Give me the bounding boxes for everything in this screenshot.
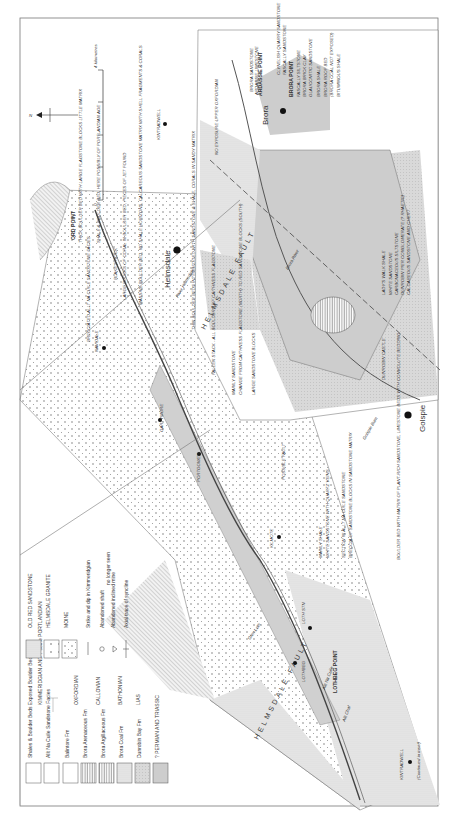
svg-text:no longer seen: no longer seen	[105, 552, 111, 585]
legend-swatch-shales	[26, 763, 41, 783]
svg-text:CLYNELISH QUARRY SANDSTONE: CLYNELISH QUARRY SANDSTONE	[276, 3, 281, 75]
svg-text:CARBONACEOUS SILTSTONE: CARBONACEOUS SILTSTONE	[394, 232, 399, 295]
legend-swatch-balintore	[63, 763, 78, 783]
svg-text:BLAKE'S ROCK: BLAKE'S ROCK	[113, 247, 118, 280]
svg-text:LIAS: LIAS	[135, 693, 141, 705]
svg-text:Shales & Boulder Beds Exposed: Shales & Boulder Beds Exposed Boulder Be…	[27, 654, 33, 758]
svg-text:(BRORA COAL NOT EXPOSED): (BRORA COAL NOT EXPOSED)	[329, 32, 334, 97]
legend-swatch-brora-arenaceous	[81, 763, 96, 783]
town-brora: Brora	[261, 105, 270, 125]
svg-text:THIN BOULDER BEDS INTERBEDDED: THIN BOULDER BEDS INTERBEDDED WITH SANDS…	[191, 130, 196, 330]
svg-text:MOINE: MOINE	[63, 611, 69, 628]
svg-text:Brora Argillaceous Fm: Brora Argillaceous Fm	[100, 709, 106, 758]
svg-text:BATHONIAN: BATHONIAN	[117, 676, 123, 705]
svg-text:BRECCIATED ALLT NA CUILE SANDS: BRECCIATED ALLT NA CUILE SANDSTONE FACIE…	[86, 236, 91, 342]
geological-map: HELMSDALE FAULT HELMSDALE FAULT Brora He…	[0, 0, 449, 824]
svg-text:LADY'S WALK SHALE: LADY'S WALK SHALE	[381, 250, 386, 295]
legend-swatch-allt-na-cuile	[44, 763, 59, 783]
svg-text:LARGE BLOCKS OF CORAL IN BOULD: LARGE BLOCKS OF CORAL IN BOULDER BED, PI…	[122, 152, 127, 300]
legend-swatch-brora-coal	[117, 763, 132, 783]
town-portgower: PORTGOWER	[196, 452, 201, 482]
svg-text:Brora Arenaceous Fm: Brora Arenaceous Fm	[82, 709, 88, 758]
svg-text:CALCAREOUS SANDSTONE AND CHERT: CALCAREOUS SANDSTONE AND CHERT	[406, 209, 411, 295]
svg-text:CALLOVIAN: CALLOVIAN	[95, 677, 101, 705]
svg-text:Brora Coal Fm: Brora Coal Fm	[118, 725, 124, 758]
lothbeg-point-label: LOTHBEG POINT	[332, 650, 338, 693]
town-navidale: NAVIDALE	[94, 330, 99, 352]
svg-text:BRORA SHALE: BRORA SHALE	[316, 66, 321, 97]
town-gartymore: GARTYMORE	[159, 404, 164, 432]
svg-text:Balintore Fm: Balintore Fm	[64, 730, 70, 758]
scale-end: 4 kilometres	[93, 44, 98, 68]
svg-text:BITUMINOUS SHALE: BITUMINOUS SHALE	[336, 54, 341, 97]
svg-text:GLAUCONITIC SANDSTONE: GLAUCONITIC SANDSTONE	[308, 38, 313, 97]
svg-text:HELMSDALE GRANITE: HELMSDALE GRANITE	[45, 573, 51, 628]
legend-swatch-moine	[62, 640, 77, 658]
svg-text:WHITE SANDSTONE: WHITE SANDSTONE	[388, 252, 393, 295]
svg-text:MASSIVE BOULDER BED, NO SHALE: MASSIVE BOULDER BED, NO SHALE HORIZONS, …	[138, 45, 143, 305]
continued-note: (Continued in inset)	[416, 741, 421, 780]
svg-text:Allt Na Cuile Sandstone Facies: Allt Na Cuile Sandstone Facies	[45, 689, 51, 758]
svg-text:SHALE & BOULDER BED, HERE POSS: SHALE & BOULDER BED, HERE POSSIBLY OF PO…	[96, 105, 101, 243]
svg-text:Dunrobin Bay Fm: Dunrobin Bay Fm	[136, 719, 142, 758]
svg-text:MAINLY SANDSTONE: MAINLY SANDSTONE	[231, 351, 236, 395]
ord-point-label: ORD POINT	[70, 210, 76, 240]
legend-swatch-old-red-sandstone	[26, 640, 41, 658]
svg-text:BRORA BRICK CLAY: BRORA BRICK CLAY	[302, 53, 307, 97]
town-golspie: Golspie	[418, 404, 427, 432]
svg-text:OXFORDIAN: OXFORDIAN	[73, 675, 79, 705]
svg-text:OLD RED SANDSTONE: OLD RED SANDSTONE	[27, 573, 33, 628]
svg-text:MAINLY SHALE: MAINLY SHALE	[318, 526, 323, 558]
town-lothbeg: LOTHBEG	[301, 660, 306, 682]
svg-text:FALLEN STACK - ALL BOULDERS OF: FALLEN STACK - ALL BOULDERS OF CAITHNESS…	[211, 245, 216, 375]
legend-swatch-dunrobin-bay	[135, 763, 150, 783]
svg-text:NO EXPOSURE UPPER OXFORDIAN: NO EXPOSURE UPPER OXFORDIAN	[214, 78, 219, 155]
svg-text:BRORA ROOF BED: BRORA ROOF BED	[323, 57, 328, 97]
legend-swatch-helmsdale-granite	[44, 640, 59, 658]
svg-text:Strike and dip in Kimmeridgian: Strike and dip in Kimmeridgian	[85, 560, 91, 628]
svg-text:LARGE SANDSTONE BLOCKS: LARGE SANDSTONE BLOCKS	[251, 333, 256, 395]
svg-text:DUNROBIN PIER CONGLOMERATE (?: DUNROBIN PIER CONGLOMERATE (? RHAETIC)	[400, 194, 405, 295]
dunrobin-castle: DUNROBIN CASTLE	[381, 338, 386, 380]
svg-text:BRECCIA OF SANDSTONE BLOCKS IN: BRECCIA OF SANDSTONE BLOCKS IN SANDSTONE…	[348, 431, 353, 558]
svg-text:POSSIBLE FAULT: POSSIBLE FAULT	[281, 443, 286, 480]
svg-text:ARDASSIE LIMESTONE: ARDASSIE LIMESTONE	[254, 46, 259, 96]
legend-swatch-brora-argillaceous	[99, 763, 114, 783]
brora-point-label: BRORA POINT	[288, 60, 294, 97]
town-helmsdale: Helmsdale	[163, 250, 172, 288]
legend-swatch-permian	[153, 763, 168, 783]
town-kintradwell-south: KINTRADWELL	[399, 748, 404, 780]
svg-text:? PERMIAN AND TRIASSIC: ? PERMIAN AND TRIASSIC	[154, 695, 160, 758]
svg-text:FASCALLY SILTSTONE: FASCALLY SILTSTONE	[296, 50, 301, 97]
svg-text:Abandoned shaft: Abandoned shaft	[99, 590, 105, 628]
svg-text:FASCALLY SANDSTONE: FASCALLY SANDSTONE	[282, 25, 287, 75]
town-kintradwell-north: KINTRADWELL	[156, 108, 161, 140]
svg-text:Axial trace of syncline: Axial trace of syncline	[123, 579, 129, 628]
town-loth-stn: LOTH STN	[301, 601, 306, 624]
svg-text:BOULDER BED WITH MATRIX OF PLA: BOULDER BED WITH MATRIX OF PLANT-RICH SA…	[396, 332, 401, 560]
town-kilmote: KILMOTE	[269, 529, 274, 548]
svg-text:THICK BOULDER BED WITH LARGE F: THICK BOULDER BED WITH LARGE FLAGSTONE B…	[78, 88, 83, 243]
svg-text:CHANGE FROM CAITHNESS FLAGSTON: CHANGE FROM CAITHNESS FLAGSTONE (NORTH) …	[238, 203, 243, 395]
svg-text:SECTION IN ALLT NA CUILE SANDS: SECTION IN ALLT NA CUILE SANDSTONE	[341, 472, 346, 558]
svg-text:WHITE SANDSTONE WITH QUARTZ VE: WHITE SANDSTONE WITH QUARTZ VEINS	[325, 469, 330, 558]
